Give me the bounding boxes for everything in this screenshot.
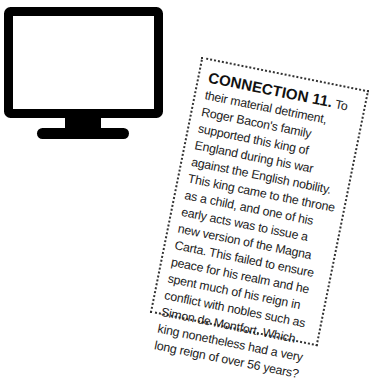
monitor-icon bbox=[0, 0, 170, 145]
card-body: To their material detriment, Roger Bacon… bbox=[153, 88, 349, 381]
connection-card: CONNECTION 11. To their material detrime… bbox=[150, 57, 369, 347]
card-text: CONNECTION 11. To their material detrime… bbox=[153, 69, 359, 382]
